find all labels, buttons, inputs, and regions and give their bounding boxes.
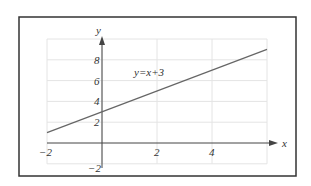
y-tick-label: 4 — [94, 95, 100, 107]
x-tick-label: 2 — [154, 146, 160, 158]
x-axis-arrow-icon — [269, 140, 278, 146]
y-tick-label: 2 — [94, 116, 100, 128]
y-axis-label: y — [95, 24, 101, 36]
y-tick-label: −2 — [88, 162, 101, 174]
x-tick-label: 4 — [209, 146, 215, 158]
y-axis-arrow-icon — [99, 36, 105, 45]
line-annotation: y=x+3 — [133, 66, 165, 78]
x-tick-label: −2 — [39, 146, 52, 158]
x-axis-label: x — [281, 137, 287, 149]
tick-labels: −2248642−2 — [39, 54, 215, 174]
y-tick-label: 6 — [94, 75, 100, 87]
chart: x y −2248642−2 y=x+3 — [0, 0, 311, 186]
y-tick-label: 8 — [94, 54, 100, 66]
